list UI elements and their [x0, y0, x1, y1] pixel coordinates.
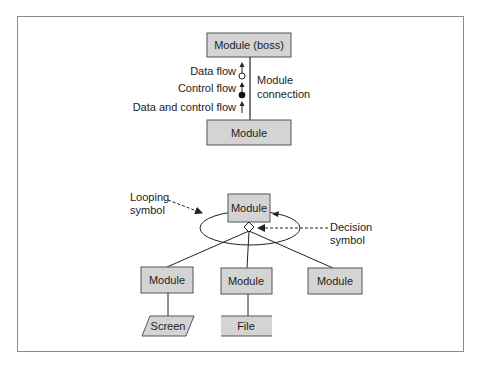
sub-module-label: Module: [231, 127, 267, 139]
screen-label: Screen: [151, 320, 186, 332]
decision-label-2: symbol: [330, 234, 365, 246]
svg-text:Module: Module: [149, 274, 185, 286]
boss-module: Module (boss): [207, 33, 291, 57]
structure-chart: Module (boss) Data flow Control flow Dat…: [0, 0, 480, 366]
parent-module-label: Module: [231, 202, 267, 214]
control-flow-icon: [239, 82, 246, 98]
decision-label-1: Decision: [330, 221, 372, 233]
svg-text:Module: Module: [317, 275, 353, 287]
sub-module: Module: [207, 120, 291, 145]
control-flow-label: Control flow: [178, 82, 236, 94]
child-module-left: Module: [141, 267, 193, 293]
parent-module: Module: [228, 194, 270, 222]
looping-pointer: [168, 200, 202, 213]
screen-symbol: Screen: [142, 316, 194, 336]
child-module-right: Module: [308, 268, 362, 294]
data-and-control-flow-icon: [240, 101, 245, 113]
file-label: File: [237, 320, 255, 332]
data-flow-icon: [239, 62, 245, 79]
decision-symbol: [244, 222, 254, 232]
data-and-control-flow-label: Data and control flow: [133, 101, 236, 113]
module-connection-label-2: connection: [257, 88, 310, 100]
module-connection-label-1: Module: [257, 74, 293, 86]
file-symbol: File: [221, 316, 272, 336]
data-flow-label: Data flow: [190, 65, 236, 77]
child-module-middle: Module: [221, 268, 272, 294]
svg-text:Module: Module: [228, 275, 264, 287]
looping-label-1: Looping: [130, 191, 169, 203]
loop-arrowhead-icon: [272, 211, 279, 217]
boss-module-label: Module (boss): [214, 39, 284, 51]
looping-label-2: symbol: [130, 204, 165, 216]
